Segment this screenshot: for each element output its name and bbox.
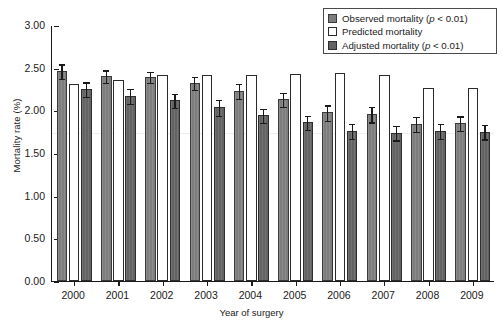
error-bar-cap-upper bbox=[413, 117, 419, 118]
y-tick-label: 3.00 bbox=[11, 20, 45, 30]
error-bar-stem bbox=[263, 109, 264, 124]
bar-observed bbox=[57, 71, 68, 281]
error-bar-stem bbox=[283, 93, 284, 108]
error-bar-cap-lower bbox=[413, 132, 419, 133]
error-bar-stem bbox=[130, 89, 131, 104]
error-bar-cap-upper bbox=[438, 124, 444, 125]
error-bar-stem bbox=[352, 124, 353, 139]
error-bar-stem bbox=[396, 126, 397, 141]
bar-adjusted bbox=[125, 96, 136, 281]
bar-group bbox=[101, 26, 136, 281]
error-bar-cap-upper bbox=[192, 77, 198, 78]
error-bar-stem bbox=[61, 64, 62, 79]
bar-predicted bbox=[69, 84, 80, 281]
x-tick-mark bbox=[74, 281, 75, 286]
error-bar-cap-upper bbox=[172, 94, 178, 95]
bar-adjusted bbox=[303, 122, 314, 281]
error-bar-cap-lower bbox=[216, 116, 222, 117]
x-tick-mark bbox=[429, 281, 430, 286]
bar-adjusted bbox=[480, 132, 491, 281]
x-tick-mark bbox=[340, 281, 341, 286]
error-bar-stem bbox=[484, 125, 485, 140]
bar-predicted bbox=[379, 75, 390, 282]
error-bar-cap-lower bbox=[393, 140, 399, 141]
error-bar-stem bbox=[194, 77, 195, 90]
bar-adjusted bbox=[391, 133, 402, 281]
bar-predicted bbox=[423, 88, 434, 281]
error-bar-cap-lower bbox=[260, 123, 266, 124]
legend-item: Adjusted mortality (p < 0.01) bbox=[328, 39, 496, 52]
bar-predicted bbox=[157, 75, 168, 281]
error-bar-stem bbox=[239, 84, 240, 99]
error-bar-stem bbox=[86, 82, 87, 97]
error-bar-cap-upper bbox=[127, 89, 133, 90]
legend-label-main: Predicted mortality bbox=[342, 26, 422, 37]
error-bar-cap-upper bbox=[393, 126, 399, 127]
error-bar-cap-lower bbox=[127, 104, 133, 105]
legend-item-label: Adjusted mortality (p < 0.01) bbox=[342, 40, 463, 51]
x-tick-mark bbox=[296, 281, 297, 286]
error-bar-cap-upper bbox=[457, 116, 463, 117]
mortality-bar-chart: Mortality rate (%) 0.000.501.001.502.002… bbox=[0, 0, 503, 326]
error-bar-stem bbox=[106, 70, 107, 83]
error-bar-stem bbox=[219, 100, 220, 115]
predicted-swatch-icon bbox=[328, 27, 337, 36]
bar-observed bbox=[145, 77, 156, 281]
bar-group bbox=[367, 26, 402, 281]
bar-group bbox=[411, 26, 446, 281]
observed-swatch-icon bbox=[328, 14, 337, 23]
bar-group bbox=[455, 26, 490, 281]
bar-group bbox=[234, 26, 269, 281]
bar-observed bbox=[190, 83, 201, 281]
error-bar-stem bbox=[371, 107, 372, 122]
error-bar-cap-upper bbox=[349, 124, 355, 125]
bar-group bbox=[190, 26, 225, 281]
x-tick-mark bbox=[118, 281, 119, 286]
legend-label-main: Observed mortality ( bbox=[342, 13, 429, 24]
error-bar-stem bbox=[174, 94, 175, 108]
error-bar-stem bbox=[460, 116, 461, 131]
error-bar-cap-lower bbox=[349, 139, 355, 140]
bar-group bbox=[278, 26, 313, 281]
y-tick-label: 0.00 bbox=[11, 276, 45, 286]
error-bar-cap-upper bbox=[59, 64, 65, 65]
bar-observed bbox=[101, 76, 112, 281]
error-bar-cap-lower bbox=[103, 83, 109, 84]
bar-observed bbox=[322, 112, 333, 281]
x-tick-mark bbox=[473, 281, 474, 286]
error-bar-stem bbox=[440, 124, 441, 139]
legend-item-label: Observed mortality (p < 0.01) bbox=[342, 13, 468, 24]
bar-predicted bbox=[246, 75, 257, 281]
bar-observed bbox=[411, 124, 422, 281]
error-bar-cap-upper bbox=[482, 125, 488, 126]
bar-predicted bbox=[335, 73, 346, 281]
error-bar-cap-lower bbox=[147, 83, 153, 84]
legend-label-tail: < 0.01) bbox=[430, 40, 463, 51]
bar-adjusted bbox=[214, 107, 225, 281]
bar-group bbox=[322, 26, 357, 281]
bar-adjusted bbox=[258, 115, 269, 281]
y-tick-label: 1.50 bbox=[11, 148, 45, 158]
x-tick-mark bbox=[163, 281, 164, 286]
bar-adjusted bbox=[435, 131, 446, 281]
bar-adjusted bbox=[347, 131, 358, 281]
legend-item: Observed mortality (p < 0.01) bbox=[328, 12, 496, 25]
error-bar-stem bbox=[150, 72, 151, 83]
error-bar-cap-lower bbox=[482, 139, 488, 140]
bar-predicted bbox=[202, 75, 213, 281]
error-bar-cap-lower bbox=[280, 107, 286, 108]
legend-item: Predicted mortality bbox=[328, 25, 496, 38]
error-bar-cap-upper bbox=[147, 72, 153, 73]
error-bar-cap-lower bbox=[236, 99, 242, 100]
error-bar-cap-upper bbox=[260, 109, 266, 110]
legend-label-tail: < 0.01) bbox=[435, 13, 468, 24]
error-bar-cap-lower bbox=[438, 139, 444, 140]
error-bar-cap-lower bbox=[457, 131, 463, 132]
error-bar-stem bbox=[416, 117, 417, 132]
bar-observed bbox=[278, 99, 289, 281]
error-bar-stem bbox=[307, 116, 308, 131]
x-tick-mark bbox=[384, 281, 385, 286]
bar-predicted bbox=[290, 74, 301, 281]
plot-area bbox=[51, 26, 494, 282]
legend-item-label: Predicted mortality bbox=[342, 26, 422, 37]
